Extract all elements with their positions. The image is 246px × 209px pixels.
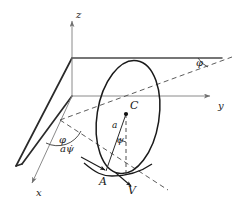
velocity-label: V xyxy=(128,185,136,196)
contact-point-label: A xyxy=(99,176,107,187)
diagram-canvas: z y x φ φ C a ψ aψ̇ A V xyxy=(0,0,246,209)
phi-upper-angle-label: φ xyxy=(196,58,203,68)
z-axis-label: z xyxy=(76,10,81,20)
center-point-marker xyxy=(124,112,128,116)
velocity-dashed-lower xyxy=(60,120,168,190)
y-axis-label: y xyxy=(218,101,224,111)
center-point-label: C xyxy=(130,100,138,111)
coordinate-axes xyxy=(32,21,210,183)
contact-speed-label: aψ̇ xyxy=(60,144,74,154)
radius-label: a xyxy=(112,121,117,130)
x-axis-label: x xyxy=(36,188,42,198)
rolling-disk-ellipse xyxy=(88,56,167,178)
psi-angle-label: ψ xyxy=(116,135,124,145)
disk-outline xyxy=(88,56,167,178)
diagram-vector-graphics xyxy=(0,0,246,209)
line-of-nodes xyxy=(60,57,232,190)
